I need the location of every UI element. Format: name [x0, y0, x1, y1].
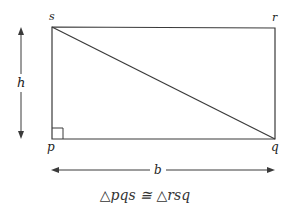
vertex-label-p: p: [47, 140, 55, 154]
base-label: b: [154, 163, 162, 177]
arrow-down-icon: [18, 131, 24, 139]
rectangle-diagram: s r p q h b △pqs ≅ △rsq: [0, 0, 290, 212]
arrow-right-icon: [267, 167, 275, 173]
congruence-caption: △pqs ≅ △rsq: [100, 187, 190, 203]
vertex-label-r: r: [272, 11, 278, 24]
vertex-label-s: s: [49, 10, 55, 23]
height-label: h: [17, 75, 25, 90]
vertex-label-q: q: [271, 140, 279, 154]
right-angle-marker: [52, 128, 63, 139]
arrow-up-icon: [18, 27, 24, 35]
diagonal-sq: [52, 27, 275, 139]
arrow-left-icon: [51, 167, 59, 173]
